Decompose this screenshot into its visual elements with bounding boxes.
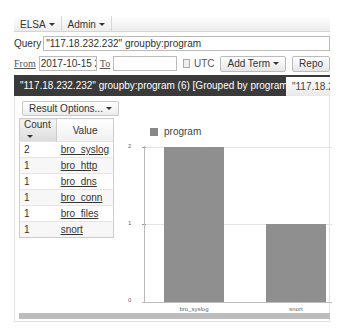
query-row: Query "117.18.232.232" groupby:program xyxy=(14,35,330,51)
caret-down-icon xyxy=(49,23,55,26)
value-link[interactable]: bro_dns xyxy=(57,174,114,190)
x-axis xyxy=(142,302,332,303)
utc-label: UTC xyxy=(194,58,215,69)
count-cell: 1 xyxy=(20,222,57,238)
table-row: 2 bro_syslog xyxy=(20,142,114,158)
table-row: 1 bro_conn xyxy=(20,190,114,206)
y-tick-label: 2 xyxy=(128,143,131,149)
count-cell: 1 xyxy=(20,174,57,190)
add-term-button[interactable]: Add Term xyxy=(220,56,286,72)
count-column-header[interactable]: Count xyxy=(20,119,57,142)
tab-label: "117.18.232.232" groupby:program (6) [Gr… xyxy=(20,80,290,91)
chart-legend: program xyxy=(150,126,201,137)
from-link[interactable]: From xyxy=(14,58,36,69)
value-link[interactable]: bro_syslog xyxy=(57,142,114,158)
elsa-menu-label: ELSA xyxy=(20,19,46,30)
table-row: 1 snort xyxy=(20,222,114,238)
table-row: 1 bro_http xyxy=(20,158,114,174)
count-cell: 1 xyxy=(20,158,57,174)
caret-down-icon xyxy=(273,62,279,65)
y-axis xyxy=(144,146,145,303)
to-date-input[interactable] xyxy=(113,56,177,71)
utc-checkbox[interactable] xyxy=(183,59,190,68)
table-row: 1 bro_dns xyxy=(20,174,114,190)
y-tick-label: 1 xyxy=(128,220,131,226)
value-link[interactable]: bro_files xyxy=(57,206,114,222)
query-label: Query xyxy=(14,38,41,49)
legend-swatch-icon xyxy=(150,128,158,136)
legend-label: program xyxy=(164,126,201,137)
result-options-label: Result Options... xyxy=(29,103,103,114)
value-link[interactable]: bro_conn xyxy=(57,190,114,206)
caret-down-icon xyxy=(106,107,112,110)
admin-menu[interactable]: Admin xyxy=(62,16,112,32)
value-link[interactable]: bro_http xyxy=(57,158,114,174)
from-date-value: 2017-10-15 22:54: xyxy=(41,58,97,69)
add-term-label: Add Term xyxy=(227,58,270,69)
caret-down-icon xyxy=(99,23,105,26)
count-header-label: Count xyxy=(24,119,51,130)
report-button[interactable]: Repo xyxy=(292,56,330,72)
to-link[interactable]: To xyxy=(100,58,110,69)
tab-label: "117.18.232.2 xyxy=(292,81,330,92)
results-tabbar: "117.18.232.232" groupby:program (6) [Gr… xyxy=(14,75,330,96)
program-bar-chart: program 2 1 0 bro_syslog snort xyxy=(114,116,330,306)
results-table: Count Value 2 bro_syslog 1 bro_http 1 br… xyxy=(19,118,114,238)
tab-grouped-results[interactable]: "117.18.232.232" groupby:program (6) [Gr… xyxy=(14,75,318,96)
elsa-menu[interactable]: ELSA xyxy=(14,16,62,32)
date-row: From 2017-10-15 22:54:30 To UTC Add Term… xyxy=(14,55,330,72)
x-tick-label: bro_syslog xyxy=(164,306,224,312)
bar-snort[interactable] xyxy=(266,224,326,302)
top-menubar: ELSA Admin xyxy=(14,16,330,32)
count-cell: 1 xyxy=(20,190,57,206)
tab-query-results[interactable]: "117.18.232.2 xyxy=(286,77,330,96)
horizontal-scrollbar[interactable] xyxy=(19,313,330,319)
result-options-button[interactable]: Result Options... xyxy=(22,101,119,116)
bar-bro-syslog[interactable] xyxy=(164,147,224,302)
query-input[interactable]: "117.18.232.232" groupby:program xyxy=(43,36,330,51)
table-row: 1 bro_files xyxy=(20,206,114,222)
admin-menu-label: Admin xyxy=(68,19,96,30)
count-cell: 2 xyxy=(20,142,57,158)
sort-caret-icon xyxy=(27,135,33,138)
from-date-input[interactable]: 2017-10-15 22:54:30 xyxy=(39,56,97,71)
value-link[interactable]: snort xyxy=(57,222,114,238)
report-label: Repo xyxy=(299,58,323,69)
count-cell: 1 xyxy=(20,206,57,222)
y-tick-label: 0 xyxy=(128,297,131,303)
x-tick-label: snort xyxy=(266,306,326,312)
value-column-header[interactable]: Value xyxy=(57,119,114,142)
